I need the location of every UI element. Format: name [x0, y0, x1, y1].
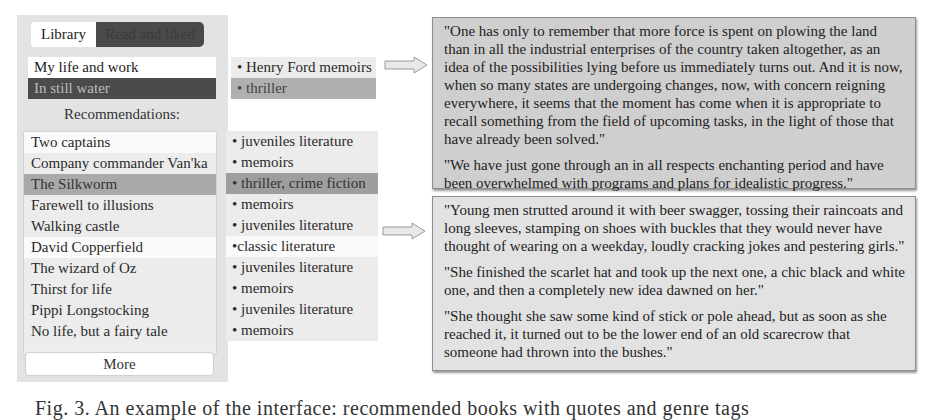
tab-read-and-liked[interactable]: Read and liked — [96, 22, 204, 47]
quote-text: "She finished the scarlet hat and took u… — [444, 263, 905, 299]
genre-tag: • memoirs — [226, 152, 378, 173]
right-arrow-icon — [382, 222, 426, 240]
recommendation-tags: • juveniles literature • memoirs • thril… — [226, 131, 378, 341]
recommendations-heading: Recommendations: — [28, 106, 216, 123]
genre-tag: • memoirs — [226, 320, 378, 341]
liked-book-item-selected[interactable]: In still water — [28, 78, 216, 99]
quote-text: "One has only to remember that more forc… — [444, 22, 905, 148]
figure-caption: Fig. 3. An example of the interface: rec… — [35, 397, 749, 420]
genre-tag: • juveniles literature — [226, 299, 378, 320]
quote-text: "We have just gone through an in all res… — [444, 156, 905, 192]
genre-tag: • juveniles literature — [226, 215, 378, 236]
quotes-box-recommended: "Young men strutted around it with beer … — [432, 196, 916, 371]
recommendations-list: Two captains Company commander Van'ka Th… — [23, 131, 217, 355]
liked-books-list: My life and work In still water — [28, 57, 216, 99]
quote-text: "She thought she saw some kind of stick … — [444, 307, 905, 361]
more-button[interactable]: More — [25, 352, 214, 376]
right-arrow-icon — [384, 56, 428, 74]
genre-tag: • memoirs — [226, 278, 378, 299]
genre-tag: • juveniles literature — [226, 131, 378, 152]
recommendation-item[interactable]: No life, but a fairy tale — [24, 321, 216, 342]
recommendation-item[interactable]: Two captains — [24, 132, 216, 153]
quotes-box-liked: "One has only to remember that more forc… — [432, 17, 916, 189]
tab-library[interactable]: Library — [31, 22, 96, 47]
quote-text: "Young men strutted around it with beer … — [444, 201, 905, 255]
genre-tag: •classic literature — [226, 236, 378, 257]
recommendation-item[interactable]: The wizard of Oz — [24, 258, 216, 279]
genre-tag: • juveniles literature — [226, 257, 378, 278]
recommendation-item-selected[interactable]: The Silkworm — [24, 174, 216, 195]
liked-books-tags: • Henry Ford memoirs • thriller — [231, 57, 376, 99]
liked-book-item[interactable]: My life and work — [28, 57, 216, 78]
tab-bar: Library Read and liked — [31, 22, 204, 47]
genre-tag-selected: • thriller, crime fiction — [226, 173, 378, 194]
recommendation-item[interactable]: Walking castle — [24, 216, 216, 237]
recommendation-item[interactable]: David Copperfield — [24, 237, 216, 258]
recommendation-item[interactable]: Pippi Longstocking — [24, 300, 216, 321]
recommendation-item[interactable]: Company commander Van'ka — [24, 153, 216, 174]
genre-tag-selected: • thriller — [231, 78, 376, 99]
genre-tag: • Henry Ford memoirs — [231, 57, 376, 78]
recommendation-item[interactable]: Farewell to illusions — [24, 195, 216, 216]
genre-tag: • memoirs — [226, 194, 378, 215]
recommendation-item[interactable]: Thirst for life — [24, 279, 216, 300]
